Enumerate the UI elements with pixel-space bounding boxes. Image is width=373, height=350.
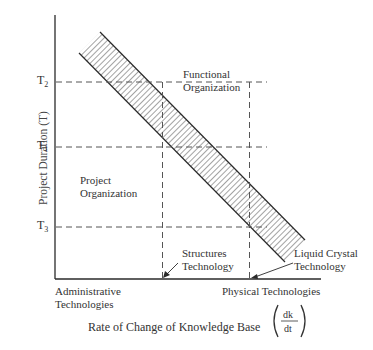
project-organization-label: Project Organization xyxy=(80,174,137,200)
tick-t2: T2 xyxy=(37,73,48,89)
administrative-technologies-label: Administrative Technologies xyxy=(55,285,121,311)
y-axis-label: Project Duration (T) xyxy=(37,93,49,223)
tick-t1: T1 xyxy=(37,138,48,154)
functional-organization-label: Functional Organization xyxy=(183,68,240,94)
physical-technologies-label: Physical Technologies xyxy=(222,285,320,298)
dk-dt-fraction: dk dt xyxy=(276,308,300,334)
liquid-crystal-arrow-line xyxy=(255,263,293,277)
x-axis-label: Rate of Change of Knowledge Base xyxy=(88,320,260,335)
structures-arrow-line xyxy=(166,263,178,275)
structures-technology-label: Structures Technology xyxy=(182,247,234,273)
liquid-crystal-technology-label: Liquid Crystal Technology xyxy=(294,247,358,273)
band-upper-edge xyxy=(100,32,305,240)
band-lower-edge xyxy=(79,53,285,262)
tick-t3: T3 xyxy=(37,218,48,234)
liquid-crystal-arrow-head xyxy=(251,274,258,279)
right-paren xyxy=(301,305,305,337)
